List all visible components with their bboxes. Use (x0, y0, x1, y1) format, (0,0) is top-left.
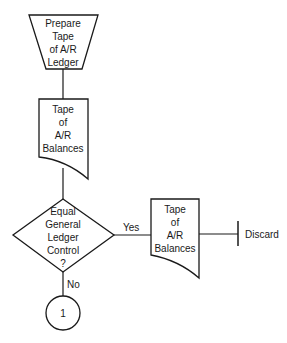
node-decision-line-2: General (45, 219, 81, 230)
node-decision-line-3: Ledger (47, 232, 79, 243)
edge-label-yes: Yes (123, 222, 139, 233)
node-prepare-line-2: Tape (52, 31, 74, 42)
node-decision-line-1: Equal (50, 206, 76, 217)
node-decision-line-4: Control (47, 245, 79, 256)
node-connector-1: 1 (46, 296, 80, 330)
node-decision-equal-gl-control: Equal General Ledger Control ? (13, 199, 114, 272)
node-prepare-tape: Prepare Tape of A/R Ledger (29, 15, 98, 69)
node-discard: Discard (238, 221, 279, 246)
edge-label-no: No (67, 279, 80, 290)
node-tape1-line-2: of (59, 117, 68, 128)
node-prepare-line-4: Ledger (47, 57, 79, 68)
node-connector-label: 1 (60, 308, 66, 319)
node-tape2-line-3: A/R (167, 230, 184, 241)
node-tape1-line-3: A/R (55, 130, 72, 141)
node-discard-label: Discard (245, 229, 279, 240)
node-prepare-line-1: Prepare (45, 18, 81, 29)
node-tape-ar-balances-2: Tape of A/R Balances (151, 199, 199, 278)
node-decision-line-5: ? (60, 258, 66, 269)
node-tape2-line-2: of (171, 217, 180, 228)
node-prepare-line-3: of A/R (49, 44, 76, 55)
node-tape2-line-4: Balances (154, 243, 195, 254)
node-tape1-line-1: Tape (52, 104, 74, 115)
node-tape2-line-1: Tape (164, 204, 186, 215)
flowchart-canvas: Prepare Tape of A/R Ledger Tape of A/R B… (0, 0, 287, 343)
node-tape-ar-balances-1: Tape of A/R Balances (39, 99, 88, 179)
node-tape1-line-4: Balances (42, 143, 83, 154)
